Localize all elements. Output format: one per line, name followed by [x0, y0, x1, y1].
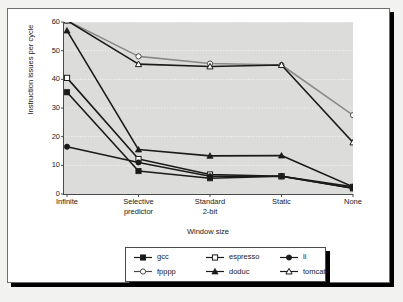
legend-item-doduc: doduc	[205, 267, 279, 276]
data-point-marker	[207, 174, 212, 179]
x-axis-labels: InfiniteSelectivepredictorStandard2-bitS…	[63, 197, 353, 221]
legend-marker-open-circle-icon	[133, 267, 153, 276]
data-point-marker	[136, 168, 141, 173]
chart-legend: gccespressolifppppdoductomcatv	[125, 247, 326, 282]
legend-item-li: li	[279, 253, 334, 262]
plot-area	[63, 22, 353, 194]
line-chart: Instruction issues per cycle 01020304050…	[8, 9, 391, 284]
data-point-marker	[136, 160, 141, 165]
series-lines	[67, 22, 353, 188]
x-axis-title: Window size	[63, 227, 353, 236]
y-tick-label: 40	[30, 75, 60, 83]
data-point-marker	[279, 174, 284, 179]
gridlines	[63, 22, 353, 165]
x-tick-label: Static	[242, 197, 322, 207]
legend-marker-open-triangle-icon	[279, 267, 299, 276]
y-tick-label: 10	[30, 161, 60, 169]
x-tick-label: None	[313, 197, 393, 207]
data-point-marker	[64, 75, 69, 80]
data-point-marker	[136, 54, 141, 59]
x-tick-label: Selectivepredictor	[99, 197, 179, 216]
data-point-marker	[64, 144, 69, 149]
data-point-marker	[350, 113, 353, 118]
y-tick-label: 30	[30, 104, 60, 112]
figure-page: Instruction issues per cycle 01020304050…	[7, 8, 390, 283]
data-point-marker	[64, 90, 69, 95]
y-tick-label: 20	[30, 133, 60, 141]
legend-label: tomcatv	[303, 268, 329, 276]
plot-svg	[63, 22, 353, 194]
screenshot-root: Instruction issues per cycle 01020304050…	[0, 0, 403, 302]
y-tick-label: 50	[30, 47, 60, 55]
legend-label: fpppp	[157, 268, 176, 276]
legend-marker-filled-square-icon	[133, 253, 153, 262]
legend-label: espresso	[229, 253, 259, 261]
legend-label: gcc	[157, 253, 169, 261]
y-axis-line	[61, 22, 65, 195]
legend-label: li	[303, 253, 306, 261]
legend-item-tomcatv: tomcatv	[279, 267, 334, 276]
legend-item-gcc: gcc	[133, 253, 205, 262]
y-tick-label: 60	[30, 18, 60, 26]
legend-item-espresso: espresso	[205, 253, 279, 262]
legend-marker-filled-circle-icon	[279, 253, 299, 262]
x-tick-label: Infinite	[27, 197, 107, 207]
legend-marker-open-square-icon	[205, 253, 225, 262]
legend-marker-filled-triangle-icon	[205, 267, 225, 276]
legend-label: doduc	[229, 268, 249, 276]
x-tick-label: Standard2-bit	[170, 197, 250, 216]
y-axis-ticks: 0102030405060	[24, 22, 60, 194]
legend-item-fpppp: fpppp	[133, 267, 205, 276]
